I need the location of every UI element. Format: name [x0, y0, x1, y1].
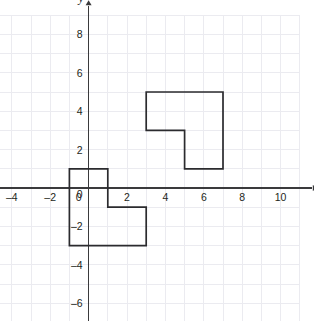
- x-tick-label: 8: [239, 191, 245, 203]
- x-tick-label: –2: [44, 191, 56, 203]
- x-tick-label: 10: [275, 191, 287, 203]
- y-tick-label: –4: [71, 259, 83, 271]
- y-tick-label: 2: [77, 144, 83, 156]
- y-tick-label: –6: [71, 297, 83, 309]
- y-tick-label: 0: [77, 188, 83, 200]
- y-tick-label: 4: [77, 105, 83, 117]
- y-tick-label: –2: [71, 220, 83, 232]
- plot-background: [0, 0, 314, 321]
- x-axis-arrowhead: [313, 185, 314, 191]
- coordinate-plane: –4–2024681086420–2–4–6 x y: [0, 0, 314, 321]
- y-tick-label: 6: [77, 67, 83, 79]
- x-tick-label: –4: [6, 191, 18, 203]
- x-tick-label: 2: [124, 191, 130, 203]
- x-tick-label: 6: [201, 191, 207, 203]
- y-tick-label: 8: [77, 28, 83, 40]
- x-tick-label: 4: [162, 191, 168, 203]
